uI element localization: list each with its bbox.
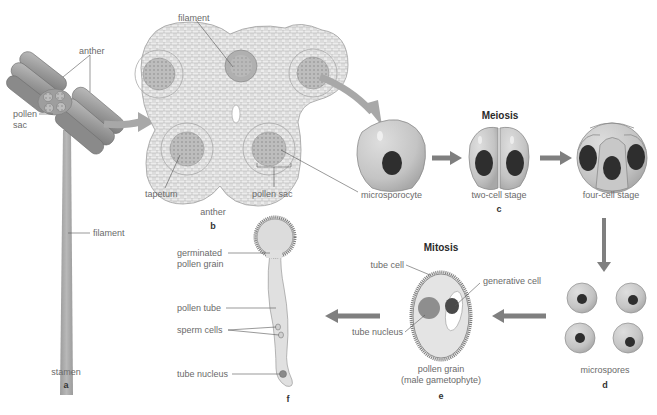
caption-pollen-grain-line1: pollen grain: [418, 364, 465, 375]
panel-letter-c: c: [496, 204, 501, 214]
label-pollen-sac-a-line1: pollen: [13, 109, 37, 120]
panel-f-germinated-pollen: [226, 217, 295, 386]
label-generative-cell: generative cell: [483, 276, 541, 287]
label-four-cell-stage: four-cell stage: [583, 190, 640, 201]
sperm-cell-2: [279, 332, 284, 338]
label-pollen-sac-a-line2: sac: [13, 120, 27, 131]
caption-pollen-grain-line2: (male gametophyte): [401, 375, 481, 386]
process-title-mitosis: Mitosis: [424, 242, 458, 253]
panel-letter-d: d: [602, 380, 608, 390]
panel-b-anther-section: [135, 20, 382, 206]
pollen-tube-shape: [268, 252, 292, 386]
generative-nucleus: [445, 298, 459, 314]
panel-d-microspores: [492, 283, 646, 353]
caption-anther: anther: [200, 207, 226, 218]
label-germinated-line2: pollen grain: [177, 259, 224, 270]
label-anther-a: anther: [79, 46, 105, 57]
label-germinated-line1: germinated: [177, 248, 222, 259]
tube-nucleus-shape: [418, 297, 440, 319]
process-title-meiosis: Meiosis: [482, 110, 519, 121]
microspore-4: [613, 323, 643, 353]
four-cell-stage: [577, 123, 647, 193]
arrow-a-to-b: [104, 122, 140, 125]
sperm-cell-1: [276, 324, 281, 330]
label-tapetum: tapetum: [145, 189, 178, 200]
label-filament-b: filament: [178, 13, 210, 24]
stamen-filament-shape: [60, 130, 73, 395]
anther-cross-section-face: [38, 89, 72, 115]
panel-a-stamen: [1, 48, 155, 395]
microspore-3: [565, 323, 595, 353]
caption-stamen: stamen: [51, 367, 81, 378]
microspore-2: [616, 283, 646, 313]
two-cell-stage: [469, 127, 529, 189]
label-microsporocyte: microsporocyte: [361, 190, 422, 201]
microspore-1: [567, 283, 597, 313]
caption-microspores: microspores: [580, 365, 629, 376]
panel-letter-e: e: [438, 391, 443, 401]
microsporocyte-nucleus: [382, 151, 402, 175]
label-sperm-cells: sperm cells: [177, 325, 223, 336]
panel-letter-b: b: [210, 221, 216, 231]
tube-nucleus-f: [280, 371, 287, 378]
pollen-development-diagram: [0, 0, 657, 415]
pollen-grain-wall: [411, 272, 471, 360]
label-tube-cell: tube cell: [370, 260, 404, 271]
label-filament-a: filament: [93, 228, 125, 239]
label-tube-nucleus-e: tube nucleus: [352, 327, 403, 338]
panel-letter-a: a: [63, 380, 68, 390]
panel-letter-f: f: [287, 394, 290, 404]
label-tube-nucleus-f: tube nucleus: [177, 369, 228, 380]
panel-e-pollen-grain: [325, 265, 480, 360]
label-pollen-sac-b: pollen sac: [252, 189, 293, 200]
label-pollen-tube: pollen tube: [177, 303, 221, 314]
label-two-cell-stage: two-cell stage: [471, 190, 526, 201]
